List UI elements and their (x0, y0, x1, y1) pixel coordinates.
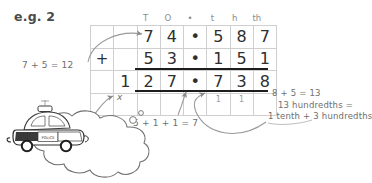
column-header-tenths: t (201, 13, 223, 23)
cell-r2c2[interactable] (114, 48, 137, 71)
annotation-right-line-2: 13 hundredths = (278, 100, 372, 112)
column-headers-row: T O • t h th (90, 13, 268, 25)
cell-r4c6-carry-tenths[interactable]: 1 (207, 93, 230, 116)
cell-r1c6[interactable]: 5 (207, 26, 230, 49)
annotation-right-line-3: 1 tenth + 3 hundredths (268, 111, 372, 123)
cell-r1c7[interactable]: 8 (230, 26, 253, 49)
carry-value-r4c4 (161, 94, 183, 96)
cell-r1c5-decimal[interactable]: • (184, 26, 207, 49)
speech-bubble-line-2-emphasis: here! (101, 151, 125, 161)
cell-r4c4[interactable] (160, 93, 183, 116)
answer-rule-bottom (135, 90, 269, 92)
annotation-middle-sum: 5 + 1 + 1 = 7 (133, 118, 198, 128)
cell-r4c1[interactable] (91, 93, 114, 116)
annotation-left-sum: 7 + 5 = 12 (22, 60, 73, 70)
cell-r4c5[interactable] (184, 93, 207, 116)
carry-value-r4c5 (184, 94, 206, 96)
carry-value-r4c7: 1 (231, 94, 253, 104)
speech-bubble-text: Do NOT put the final carry digit here! (28, 138, 150, 162)
column-header-tens: T (135, 13, 157, 23)
cell-r3c1[interactable] (91, 71, 114, 94)
cell-r1c2[interactable] (114, 26, 137, 49)
annotation-right-explanation: 8 + 5 = 13 13 hundredths = 1 tenth + 3 h… (272, 88, 372, 123)
cell-r1c1[interactable] (91, 26, 114, 49)
column-header-thousandths: th (246, 13, 268, 23)
speech-bubble-line-2-text: carry digit (53, 151, 99, 161)
carry-value-r4c6: 1 (207, 94, 229, 104)
cell-r4c3[interactable] (137, 93, 160, 116)
annotation-right-line-1: 8 + 5 = 13 (272, 88, 372, 100)
column-header-hundredths: h (224, 13, 246, 23)
cell-r1c4[interactable]: 4 (160, 26, 183, 49)
annotation-cross-mark: x (117, 92, 122, 102)
page-title: e.g. 2 (14, 9, 55, 24)
cell-r2c1-plus-sign[interactable]: + (91, 48, 114, 71)
calculation-grid: 7 4 • 5 8 7 + 5 3 • 1 5 1 1 2 7 • 7 3 8 (90, 25, 277, 116)
cell-r1c8[interactable]: 7 (253, 26, 276, 49)
table-row-addend-1: 7 4 • 5 8 7 (91, 26, 277, 49)
carry-value-r4c3 (138, 94, 160, 96)
answer-rule-top (135, 68, 269, 70)
column-header-ones: O (157, 13, 179, 23)
carry-value-r4c1 (91, 94, 113, 96)
speech-bubble-line-2: carry digit here! (28, 150, 150, 162)
cell-r4c7-carry-hundredths[interactable]: 1 (230, 93, 253, 116)
cell-r3c2[interactable]: 1 (114, 71, 137, 94)
cell-r1c3[interactable]: 7 (137, 26, 160, 49)
speech-bubble-line-1: Do NOT put the final (28, 138, 150, 150)
column-header-decimal-point: • (179, 13, 201, 23)
